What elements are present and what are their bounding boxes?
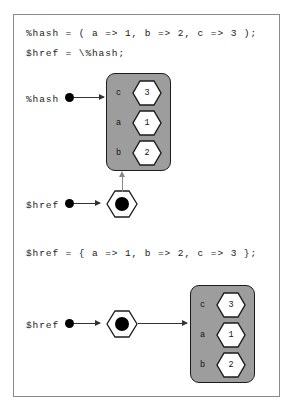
figure-frame: %hash = ( a => 1, b => 2, c => 3 ); $hre… [13, 14, 280, 397]
hash-value-hex-bottom-2: 2 [216, 352, 246, 378]
href-reference-hexagon-bottom [106, 310, 138, 338]
hash-value-hex-top-1: 1 [132, 110, 162, 136]
href-reference-dot-bottom [115, 317, 129, 331]
hash-key-bottom-0: c [200, 292, 205, 318]
href-variable-dot-bottom [65, 319, 74, 328]
hash-value-hex-top-0: 3 [132, 80, 162, 106]
hash-key-bottom-2: b [200, 352, 205, 378]
arrow-ref-to-hash-box-bottom [138, 323, 187, 324]
hash-row-top-2: b 2 [107, 140, 170, 166]
hash-value-label-bottom-0: 3 [216, 292, 246, 318]
href-variable-label-top: $href [26, 200, 59, 211]
hash-row-bottom-2: b 2 [191, 352, 254, 378]
hash-key-top-1: a [116, 110, 121, 136]
code-line-href-backslash-assignment: $href = \%hash; [26, 48, 125, 59]
hash-value-label-top-0: 3 [132, 80, 162, 106]
href-reference-dot-top [115, 197, 129, 211]
arrow-hash-to-box [74, 97, 104, 98]
hash-row-bottom-1: a 1 [191, 322, 254, 348]
hash-row-top-0: c 3 [107, 80, 170, 106]
code-line-hash-assignment: %hash = ( a => 1, b => 2, c => 3 ); [26, 28, 257, 39]
hash-value-label-top-1: 1 [132, 110, 162, 136]
hash-row-bottom-0: c 3 [191, 292, 254, 318]
arrow-ref-to-hash-box-top [122, 177, 123, 192]
hash-row-top-1: a 1 [107, 110, 170, 136]
hash-value-hex-top-2: 2 [132, 140, 162, 166]
arrow-href-to-ref-top [74, 203, 100, 204]
hash-key-bottom-1: a [200, 322, 205, 348]
href-variable-dot-top [65, 199, 74, 208]
hash-key-top-0: c [116, 80, 121, 106]
hash-box-top: c 3 a 1 b [106, 73, 171, 171]
hash-value-label-bottom-2: 2 [216, 352, 246, 378]
code-line-href-anonymous-hash: $href = { a => 1, b => 2, c => 3 }; [26, 248, 257, 259]
href-reference-hexagon-top [106, 190, 138, 218]
hash-value-label-top-2: 2 [132, 140, 162, 166]
hash-variable-label: %hash [26, 94, 59, 105]
href-variable-label-bottom: $href [26, 320, 59, 331]
arrow-href-to-ref-bottom [74, 323, 100, 324]
hash-value-hex-bottom-0: 3 [216, 292, 246, 318]
hash-key-top-2: b [116, 140, 121, 166]
hash-value-label-bottom-1: 1 [216, 322, 246, 348]
hash-value-hex-bottom-1: 1 [216, 322, 246, 348]
hash-box-bottom: c 3 a 1 b [190, 285, 255, 383]
hash-variable-dot [65, 93, 74, 102]
